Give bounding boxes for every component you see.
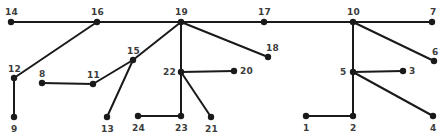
graph-edge [181, 22, 268, 57]
graph-node-label: 8 [39, 70, 45, 79]
graph-diagram: 123456789101112131415161718192021222324 [0, 0, 447, 134]
graph-node[interactable] [178, 19, 184, 25]
graph-node[interactable] [429, 19, 435, 25]
graph-node[interactable] [178, 113, 184, 119]
graph-node[interactable] [135, 113, 141, 119]
graph-node-label: 4 [430, 124, 436, 133]
graph-node-label: 1 [303, 124, 309, 133]
graph-node-label: 17 [258, 8, 271, 17]
graph-node-label: 2 [350, 124, 356, 133]
graph-edge [181, 71, 234, 72]
graph-node[interactable] [39, 80, 45, 86]
graph-node-label: 24 [132, 124, 145, 133]
graph-node-label: 21 [205, 125, 218, 134]
graph-node[interactable] [8, 19, 14, 25]
graph-node[interactable] [261, 19, 267, 25]
graph-node-label: 9 [11, 125, 17, 134]
graph-edge [133, 22, 181, 60]
graph-node[interactable] [350, 113, 356, 119]
graph-node[interactable] [11, 114, 17, 120]
graph-node-label: 5 [340, 68, 346, 77]
graph-node-label: 14 [5, 8, 18, 17]
graph-node[interactable] [130, 57, 136, 63]
graph-node[interactable] [265, 54, 271, 60]
graph-node-label: 22 [163, 68, 176, 77]
graph-node[interactable] [231, 68, 237, 74]
graph-edge [353, 71, 403, 72]
graph-node[interactable] [90, 81, 96, 87]
graph-node[interactable] [431, 58, 437, 64]
graph-node-label: 18 [266, 44, 279, 53]
graph-node-label: 12 [8, 65, 21, 74]
graph-node[interactable] [11, 75, 17, 81]
graph-node-label: 11 [87, 71, 100, 80]
graph-node-label: 23 [175, 124, 188, 133]
graph-node[interactable] [400, 68, 406, 74]
graph-edge [181, 72, 211, 117]
graph-node[interactable] [208, 114, 214, 120]
graph-node-label: 7 [430, 8, 436, 17]
graph-node-label: 3 [409, 67, 415, 76]
graph-node-label: 6 [432, 48, 438, 57]
graph-edge [353, 72, 433, 116]
graph-node[interactable] [350, 19, 356, 25]
graph-node-label: 16 [91, 8, 104, 17]
graph-node[interactable] [430, 113, 436, 119]
graph-node[interactable] [94, 19, 100, 25]
edges-layer [11, 22, 434, 117]
graph-node[interactable] [303, 113, 309, 119]
graph-edge [42, 83, 93, 84]
graph-edge [353, 22, 434, 61]
graph-svg [0, 0, 447, 134]
graph-node-label: 15 [127, 47, 140, 56]
graph-node[interactable] [350, 69, 356, 75]
graph-node-label: 20 [240, 67, 253, 76]
graph-node[interactable] [178, 69, 184, 75]
nodes-layer [8, 19, 437, 120]
graph-node-label: 10 [347, 8, 360, 17]
graph-node-label: 19 [175, 8, 188, 17]
graph-node-label: 13 [101, 125, 114, 134]
graph-edge [14, 22, 97, 78]
graph-node[interactable] [104, 114, 110, 120]
